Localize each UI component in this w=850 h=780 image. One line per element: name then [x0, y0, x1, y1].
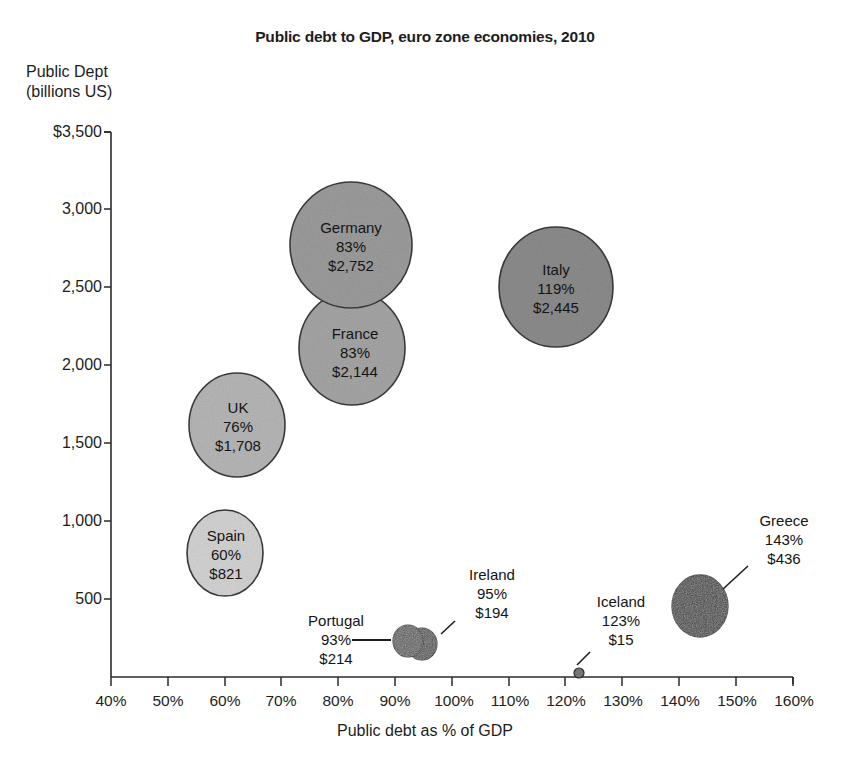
y-tick-1000: 1,000	[30, 512, 102, 530]
bubble-iceland[interactable]	[574, 668, 584, 678]
y-tick-500: 500	[30, 590, 102, 608]
callout-label-ireland: Ireland 95% $194	[447, 565, 537, 622]
leader-line-greece	[723, 566, 748, 589]
leader-line-iceland	[577, 652, 590, 665]
x-axis-ticks	[111, 677, 793, 686]
x-tick-60: 60%	[195, 692, 255, 710]
callout-label-greece: Greece 143% $436	[740, 511, 828, 568]
bubble-italy[interactable]	[499, 227, 613, 347]
x-tick-80: 80%	[308, 692, 368, 710]
callout-label-portugal: Portugal 93% $214	[288, 611, 384, 668]
x-axis-title: Public debt as % of GDP	[0, 722, 850, 740]
x-tick-40: 40%	[81, 692, 141, 710]
y-tick-2000: 2,000	[30, 356, 102, 374]
bubble-germany[interactable]	[290, 182, 412, 308]
y-tick-2500: 2,500	[30, 278, 102, 296]
x-tick-50: 50%	[138, 692, 198, 710]
x-tick-90: 90%	[365, 692, 425, 710]
leader-line-ireland	[441, 621, 455, 634]
plot-area: $3,500 3,000 2,500 2,000 1,500 1,000 500…	[0, 0, 850, 780]
chart-figure: Public debt to GDP, euro zone economies,…	[0, 0, 850, 780]
plot-svg	[0, 0, 850, 780]
y-tick-1500: 1,500	[30, 434, 102, 452]
y-axis-ticks	[104, 132, 111, 599]
callout-label-iceland: Iceland 123% $15	[578, 592, 664, 649]
x-tick-160: 160%	[761, 692, 827, 710]
bubble-uk[interactable]	[189, 373, 285, 477]
bubble-portugal[interactable]	[393, 625, 423, 657]
bubble-spain[interactable]	[187, 510, 263, 596]
x-tick-70: 70%	[251, 692, 311, 710]
bubble-greece[interactable]	[672, 575, 728, 637]
y-tick-3500: $3,500	[30, 123, 102, 141]
y-tick-3000: 3,000	[30, 200, 102, 218]
